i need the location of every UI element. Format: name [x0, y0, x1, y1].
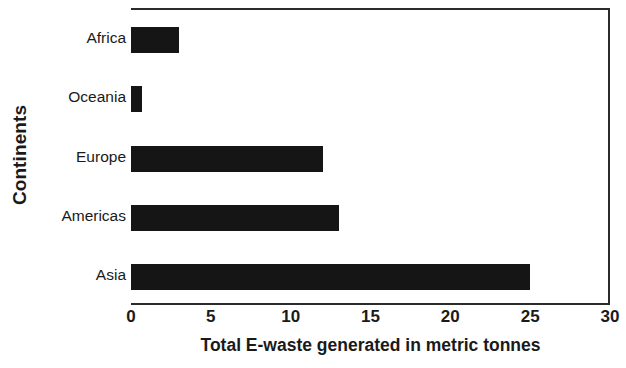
y-axis-tick-labels: AfricaOceaniaEuropeAmericasAsia	[34, 8, 126, 305]
x-axis-tick-labels: 051015202530	[131, 307, 610, 333]
bar-chart-figure: Continents AfricaOceaniaEuropeAmericasAs…	[0, 0, 626, 368]
bar-asia	[131, 264, 530, 290]
plot-area	[131, 10, 608, 303]
x-tick-label-0: 0	[126, 307, 135, 327]
bar-europe	[131, 146, 323, 172]
x-tick-label-15: 15	[361, 307, 380, 327]
y-axis-title-text: Continents	[9, 105, 31, 205]
bar-americas	[131, 205, 339, 231]
y-tick-label-oceania: Oceania	[34, 88, 126, 106]
x-tick-label-10: 10	[281, 307, 300, 327]
x-tick-label-30: 30	[601, 307, 620, 327]
bar-africa	[131, 27, 179, 53]
x-axis-title: Total E-waste generated in metric tonnes	[131, 335, 610, 356]
x-tick-label-20: 20	[441, 307, 460, 327]
x-tick-label-5: 5	[206, 307, 215, 327]
bar-oceania	[131, 86, 142, 112]
y-tick-label-europe: Europe	[34, 148, 126, 166]
y-tick-label-africa: Africa	[34, 29, 126, 47]
y-tick-label-asia: Asia	[34, 266, 126, 284]
y-tick-label-americas: Americas	[34, 207, 126, 225]
x-tick-label-25: 25	[521, 307, 540, 327]
plot-frame	[131, 8, 610, 305]
